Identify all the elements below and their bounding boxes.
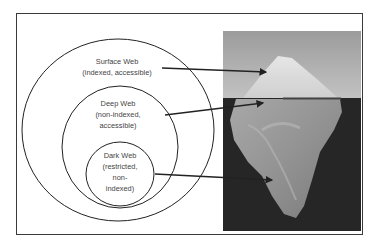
surface-web-desc: (indexed, accessible) [82, 67, 151, 78]
dark-web-label: Dark Web (restricted, non- indexed) [103, 150, 138, 194]
deep-web-desc-1: (non-indexed, [95, 109, 140, 120]
dark-web-desc-2: non- [103, 172, 138, 183]
deep-web-desc-2: accessible) [95, 120, 140, 131]
dark-web-desc-1: (restricted, [103, 161, 138, 172]
surface-web-title: Surface Web [82, 56, 151, 67]
iceberg-image [223, 31, 361, 231]
deep-web-label: Deep Web (non-indexed, accessible) [95, 98, 140, 131]
diagram-canvas [0, 0, 377, 250]
surface-web-label: Surface Web (indexed, accessible) [82, 56, 151, 78]
dark-web-title: Dark Web [103, 150, 138, 161]
deep-web-title: Deep Web [95, 98, 140, 109]
dark-web-desc-3: indexed) [103, 183, 138, 194]
